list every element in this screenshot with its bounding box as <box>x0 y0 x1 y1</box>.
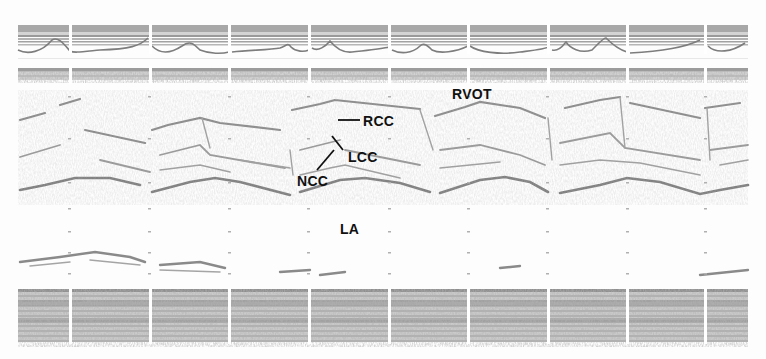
label-rvot: RVOT <box>452 87 492 101</box>
anterior-wall-band <box>18 68 748 83</box>
label-ncc: NCC <box>297 174 328 188</box>
label-rcc: RCC <box>363 114 394 128</box>
m-mode-echocardiogram: RVOT RCC LCC NCC LA <box>0 0 766 359</box>
echo-trace-canvas <box>0 0 766 359</box>
label-lcc: LCC <box>348 150 378 164</box>
label-la: LA <box>340 222 359 236</box>
posterior-wall-band <box>18 289 748 347</box>
aortic-root-echoes <box>18 90 748 205</box>
